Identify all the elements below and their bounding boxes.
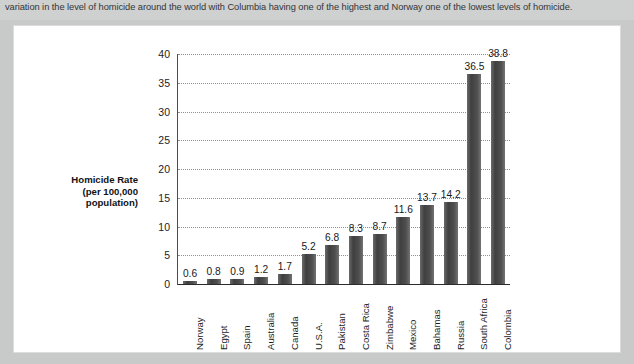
bar-value-label: 8.7 bbox=[360, 221, 400, 232]
caption-text: variation in the level of homicide aroun… bbox=[5, 2, 629, 12]
y-axis-tick-label: 30 bbox=[140, 106, 170, 118]
bar bbox=[420, 205, 434, 284]
x-axis-category-label: Pakistan bbox=[336, 313, 347, 350]
gridline bbox=[178, 83, 510, 84]
bar bbox=[396, 217, 410, 284]
x-axis-category-label: Zimbabwe bbox=[384, 306, 395, 350]
bar bbox=[467, 74, 481, 284]
x-axis-category-label: Bahamas bbox=[431, 309, 442, 350]
plot-area: 0.60.80.91.21.75.26.88.38.711.613.714.23… bbox=[178, 54, 510, 284]
y-axis-title: Homicide Rate(per 100,000population) bbox=[26, 174, 138, 209]
y-axis-title-line: Homicide Rate bbox=[26, 174, 138, 186]
bar bbox=[325, 245, 339, 284]
bar bbox=[230, 279, 244, 284]
y-axis-title-line: (per 100,000 bbox=[26, 186, 138, 198]
bar bbox=[491, 61, 505, 284]
gridline bbox=[178, 54, 510, 55]
x-axis-category-label: Russia bbox=[455, 321, 466, 350]
bar-value-label: 11.6 bbox=[383, 204, 423, 215]
bar-value-label: 36.5 bbox=[454, 61, 494, 72]
gridline bbox=[178, 112, 510, 113]
y-axis-tick-label: 25 bbox=[140, 134, 170, 146]
x-axis-category-label: Costa Rica bbox=[360, 303, 371, 350]
bar-value-label: 1.7 bbox=[265, 261, 305, 272]
bar bbox=[207, 279, 221, 284]
bar bbox=[349, 236, 363, 284]
gridline bbox=[178, 169, 510, 170]
bar bbox=[183, 281, 197, 284]
x-axis-category-label: Norway bbox=[194, 317, 205, 350]
y-axis-tick-label: 5 bbox=[140, 249, 170, 261]
bar bbox=[444, 202, 458, 284]
x-axis-category-label: Spain bbox=[241, 325, 252, 350]
x-axis-category-label: South Africa bbox=[478, 298, 489, 350]
x-axis-category-label: Mexico bbox=[407, 320, 418, 350]
x-axis-category-labels: NorwayEgyptSpainAustraliaCanadaU.S.A.Pak… bbox=[178, 286, 518, 352]
y-axis-tick-labels: 0510152025303540 bbox=[138, 54, 170, 284]
bar bbox=[278, 274, 292, 284]
y-axis-tick-label: 35 bbox=[140, 77, 170, 89]
bar bbox=[254, 277, 268, 284]
x-axis-category-label: Canada bbox=[289, 316, 300, 350]
y-axis-tick-label: 15 bbox=[140, 192, 170, 204]
x-axis-baseline bbox=[178, 284, 510, 285]
bar bbox=[373, 234, 387, 284]
bar-value-label: 38.8 bbox=[478, 48, 518, 59]
gridline bbox=[178, 255, 510, 256]
y-axis-tick-label: 20 bbox=[140, 163, 170, 175]
figure-panel: Homicide Rate(per 100,000population) 051… bbox=[14, 26, 620, 352]
y-axis-title-line: population) bbox=[26, 197, 138, 209]
y-axis-tick-label: 10 bbox=[140, 221, 170, 233]
homicide-rate-bar-chart: Homicide Rate(per 100,000population) 051… bbox=[14, 26, 620, 352]
bar bbox=[302, 254, 316, 284]
y-axis-tick-label: 40 bbox=[140, 48, 170, 60]
page-caption-strip: variation in the level of homicide aroun… bbox=[0, 0, 634, 20]
x-axis-category-label: U.S.A. bbox=[313, 322, 324, 350]
y-axis-tick-label: 0 bbox=[140, 278, 170, 290]
x-axis-category-label: Egypt bbox=[218, 325, 229, 350]
x-axis-category-label: Australia bbox=[265, 313, 276, 350]
bar-value-label: 14.2 bbox=[431, 189, 471, 200]
gridline bbox=[178, 140, 510, 141]
x-axis-category-label: Colombia bbox=[502, 309, 513, 350]
